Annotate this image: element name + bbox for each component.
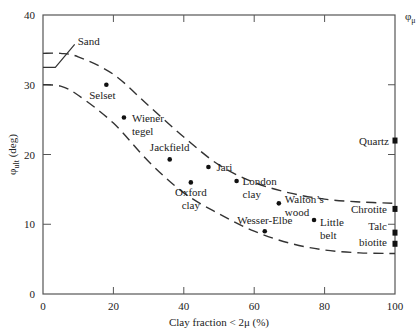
y-tick-label: 40 xyxy=(24,9,36,21)
point-walton-s-wood xyxy=(277,201,282,206)
data-points: SelsetWienertegelJackfieldJariOxfordclay… xyxy=(89,82,397,247)
x-tick-label: 80 xyxy=(319,300,331,312)
y-tick-label: 0 xyxy=(30,288,36,300)
y-tick-label: 10 xyxy=(24,218,36,230)
label-wiener-tegel: Wiener xyxy=(132,112,164,124)
label-biotite: biotite xyxy=(359,236,387,248)
x-tick-label: 60 xyxy=(249,300,261,312)
point-jackfield xyxy=(167,157,172,162)
x-tick-label: 0 xyxy=(40,300,46,312)
sand-label: Sand xyxy=(78,35,101,47)
scatter-chart: 020406080100010203040 Sand SelsetWienert… xyxy=(0,0,418,335)
label-jari: Jari xyxy=(216,161,232,173)
point-london-clay xyxy=(234,179,239,184)
x-axis-label: Clay fraction < 2μ (%) xyxy=(169,316,269,329)
point-chrotite xyxy=(393,206,398,212)
y-tick-label: 30 xyxy=(24,79,36,91)
point-talc xyxy=(393,230,398,236)
label-wiener-tegel: tegel xyxy=(132,125,153,137)
point-quartz xyxy=(393,138,398,144)
upper-bound-curve xyxy=(43,53,395,203)
label-walton-s-wood: Walton’s xyxy=(285,193,324,205)
chart-container: 020406080100010203040 Sand SelsetWienert… xyxy=(0,0,418,335)
point-little-belt xyxy=(312,218,317,223)
label-oxford-clay: Oxford xyxy=(175,186,207,198)
right-axis-label: φμ xyxy=(405,10,416,25)
point-oxford-clay xyxy=(189,180,194,185)
axis-labels: Clay fraction < 2μ (%)φult (deg)φμ xyxy=(6,10,416,329)
label-chrotite: Chrotite xyxy=(351,203,387,215)
point-wesser-elbe xyxy=(262,229,267,234)
label-oxford-clay: clay xyxy=(182,199,201,211)
label-london-clay: London xyxy=(243,175,278,187)
point-jari xyxy=(206,165,211,170)
label-talc: Talc xyxy=(368,220,387,232)
sand-line-path xyxy=(43,44,75,67)
label-quartz: Quartz xyxy=(359,135,389,147)
point-selset xyxy=(104,82,109,87)
x-tick-label: 40 xyxy=(178,300,190,312)
label-little-belt: belt xyxy=(320,229,337,241)
x-tick-label: 20 xyxy=(108,300,120,312)
axes: 020406080100010203040 xyxy=(24,9,404,312)
label-little-belt: Little xyxy=(320,216,344,228)
point-biotite xyxy=(393,241,398,247)
y-axis-label: φult (deg) xyxy=(6,134,21,175)
point-wiener-tegel xyxy=(122,115,127,120)
label-selset: Selset xyxy=(89,89,115,101)
label-jackfield: Jackfield xyxy=(150,141,190,153)
x-tick-label: 100 xyxy=(387,300,404,312)
label-wesser-elbe: Wesser-Elbe xyxy=(237,214,292,226)
label-london-clay: clay xyxy=(243,188,262,200)
y-tick-label: 20 xyxy=(24,149,36,161)
